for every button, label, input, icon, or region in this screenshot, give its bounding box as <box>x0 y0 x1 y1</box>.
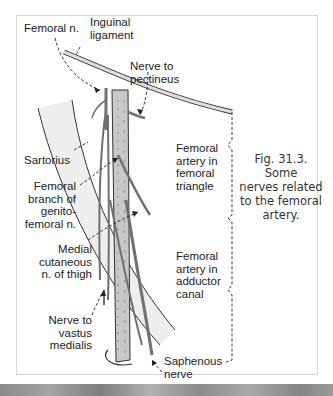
label-femoral-n: Femoral n. <box>24 22 79 35</box>
label-adductor-canal: Femoral artery in adductor canal <box>176 250 221 300</box>
label-sartorius: Sartorius <box>24 154 70 167</box>
label-saphenous-nerve: Saphenous nerve <box>164 355 222 380</box>
label-nerve-to-pectineus: Nerve to pectineus <box>130 60 179 85</box>
page-edge-band <box>0 384 333 396</box>
leader-inguinal <box>76 47 80 55</box>
label-medial-cutaneous-nerve: Medial cutaneous n. of thigh <box>20 243 92 281</box>
arrow-saphenous <box>152 360 157 366</box>
nerve-branch-2 <box>108 115 109 300</box>
arrow-pectineus <box>137 109 143 115</box>
label-femoral-triangle: Femoral artery in femoral triangle <box>176 142 218 192</box>
bracket-femoral-triangle <box>228 112 232 218</box>
arrow-femoral-n <box>94 87 100 93</box>
bracket-adductor-canal <box>226 218 232 362</box>
figure-caption: Fig. 31.3. Some nerves related to the fe… <box>238 152 324 222</box>
nerve-to-pectineus <box>128 112 145 118</box>
nerve-branch-3 <box>92 100 106 118</box>
label-nerve-to-vastus-medialis: Nerve to vastus medialis <box>20 314 92 352</box>
label-inguinal-ligament: Inguinal ligament <box>90 16 133 41</box>
label-femoral-branch-genitofemoral: Femoral branch of genito- femoral n. <box>20 180 76 230</box>
